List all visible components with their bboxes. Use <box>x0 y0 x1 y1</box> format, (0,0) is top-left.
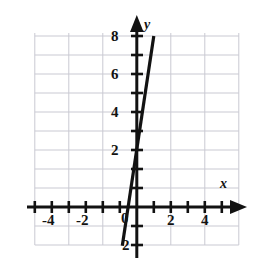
x-tick-label-negative-4: -4 <box>42 213 55 228</box>
coordinate-plane <box>0 0 265 268</box>
x-tick-label-4: 4 <box>201 213 209 228</box>
graph-figure: 8 6 4 2 2 -4 -2 2 4 0 x y <box>0 0 265 268</box>
y-tick-label-6: 6 <box>111 67 119 82</box>
x-axis-label: x <box>220 177 227 191</box>
origin-label: 0 <box>121 211 129 226</box>
y-axis-label: y <box>144 18 150 32</box>
x-tick-label-2: 2 <box>167 213 175 228</box>
x-tick-label-negative-2: -2 <box>76 213 89 228</box>
y-tick-label-negative-2: 2 <box>122 238 130 253</box>
y-axis <box>130 15 144 258</box>
y-tick-label-8: 8 <box>111 29 119 44</box>
y-tick-label-2: 2 <box>111 143 119 158</box>
y-tick-label-4: 4 <box>111 105 119 120</box>
